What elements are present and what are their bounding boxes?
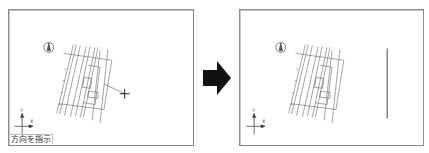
drawing-canvas-before[interactable]: Y X <box>9 10 193 145</box>
drawing-viewport-after[interactable]: Y X <box>239 9 424 146</box>
drawing-viewport-before[interactable]: Y X 方向を指示 <box>8 9 194 146</box>
svg-text:X: X <box>262 118 266 124</box>
svg-text:Y: Y <box>19 107 23 113</box>
site-plan-drawing <box>57 44 125 123</box>
north-arrow-icon <box>276 43 286 53</box>
svg-text:Y: Y <box>251 107 255 113</box>
drawing-canvas-after[interactable]: Y X <box>240 10 423 145</box>
site-plan-drawing <box>289 44 344 123</box>
svg-text:X: X <box>30 118 34 124</box>
ucs-axis-icon: Y X <box>246 107 266 134</box>
crosshair-cursor-icon <box>120 89 130 99</box>
ucs-axis-icon: Y X <box>14 107 34 134</box>
command-prompt-text: 方向を指示 <box>10 134 53 144</box>
right-arrow-icon <box>203 61 231 95</box>
north-arrow-icon <box>44 43 54 53</box>
